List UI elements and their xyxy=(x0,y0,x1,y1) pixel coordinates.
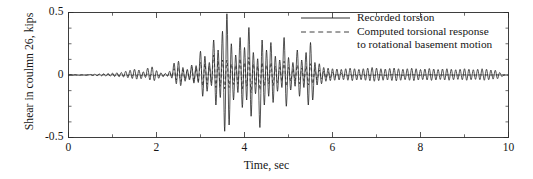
x-axis-title: Time, sec xyxy=(0,158,533,173)
figure-container: 0.50-0.5 0246810 Shear in coulmn 26, kip… xyxy=(0,0,533,179)
x-tick-label: 10 xyxy=(494,141,524,153)
x-tick-label: 0 xyxy=(54,141,84,153)
x-tick-label: 8 xyxy=(406,141,436,153)
legend-dashed-line-icon xyxy=(300,25,354,39)
legend-label-recorded-torsion: Recorded torsion xyxy=(354,11,435,25)
x-tick-label: 2 xyxy=(142,141,172,153)
x-tick-label: 4 xyxy=(230,141,260,153)
x-tick-label: 6 xyxy=(318,141,348,153)
legend-label-computed-response: Computed torsional response xyxy=(354,25,489,39)
legend-label-computed-response-line2: to rotational basement motion xyxy=(300,38,492,52)
legend-item-computed-response: Computed torsional response xyxy=(300,25,492,39)
chart-legend: Recorded torsion Computed torsional resp… xyxy=(300,11,492,52)
legend-item-recorded-torsion: Recorded torsion xyxy=(300,11,492,25)
legend-solid-line-icon xyxy=(300,11,354,25)
y-axis-title: Shear in coulmn 26, kips xyxy=(22,0,37,147)
